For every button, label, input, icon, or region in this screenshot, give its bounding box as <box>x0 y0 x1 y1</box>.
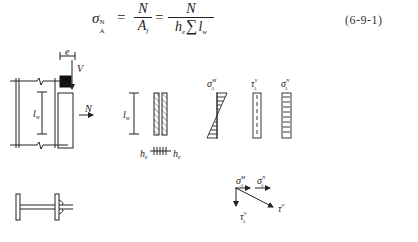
tau-v-resultant-vector <box>236 188 273 207</box>
label-lw: lw <box>33 108 40 120</box>
weld-stress-figure: e V N lw lw he he σMA τVA <box>0 0 418 242</box>
shear-stress-diagram <box>253 93 261 138</box>
label-lw: lw <box>123 109 130 121</box>
label-sigma-n-vec: σNA <box>257 175 266 188</box>
stress-vector-diagram <box>235 188 273 207</box>
label-n: N <box>84 103 93 114</box>
bending-stress-diagram <box>207 92 227 139</box>
label-sigma-m: σMA <box>207 78 217 91</box>
weld-bottom <box>59 209 63 214</box>
weld-throat-right <box>162 93 167 135</box>
bracket-plate <box>58 93 73 148</box>
label-tau-a-vec: τVA <box>240 211 248 224</box>
stress-triangles <box>207 93 227 138</box>
label-he-right: he <box>173 148 181 160</box>
normal-stress-diagram <box>282 93 291 138</box>
label-tau-v: τVA <box>251 78 259 91</box>
normal-rect <box>282 93 291 138</box>
weld-section-diagram <box>129 93 171 155</box>
weld-throat-left <box>154 93 159 135</box>
column-flange <box>16 194 20 220</box>
bracket-flange <box>55 194 59 220</box>
plan-section-diagram <box>16 194 73 220</box>
label-v: V <box>77 63 85 74</box>
weld-top <box>59 200 63 205</box>
label-tau-v-vec: τV <box>278 203 286 214</box>
load-block <box>60 76 71 87</box>
label-sigma-n: σNA <box>281 78 290 91</box>
label-sigma-m-vec: σMA <box>236 175 246 188</box>
label-he-left: he <box>140 148 148 160</box>
label-e: e <box>65 46 70 57</box>
